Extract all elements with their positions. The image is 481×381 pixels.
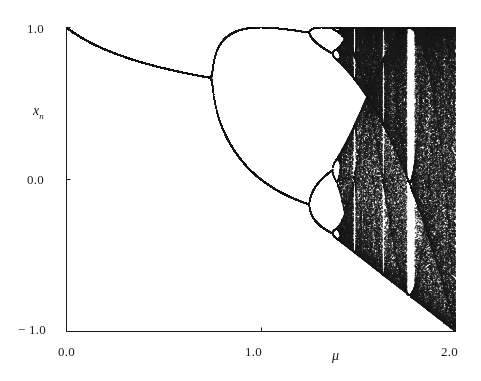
bifurcation-plot-canvas: [0, 0, 481, 381]
x-tick-label-2: 2.0: [441, 344, 458, 360]
x-axis-title: μ: [332, 348, 339, 364]
y-tick-label-neg1: − 1.0: [18, 322, 46, 338]
x-tick-label-1: 1.0: [245, 344, 262, 360]
y-axis-title-subscript: n: [39, 111, 44, 121]
y-axis-title: xn: [33, 103, 44, 121]
x-tick-label-0: 0.0: [58, 344, 75, 360]
y-tick-label-1: 1.0: [27, 21, 44, 37]
y-tick-label-0: 0.0: [27, 172, 44, 188]
bifurcation-figure: 1.0 0.0 − 1.0 0.0 1.0 2.0 xn μ: [0, 0, 481, 381]
